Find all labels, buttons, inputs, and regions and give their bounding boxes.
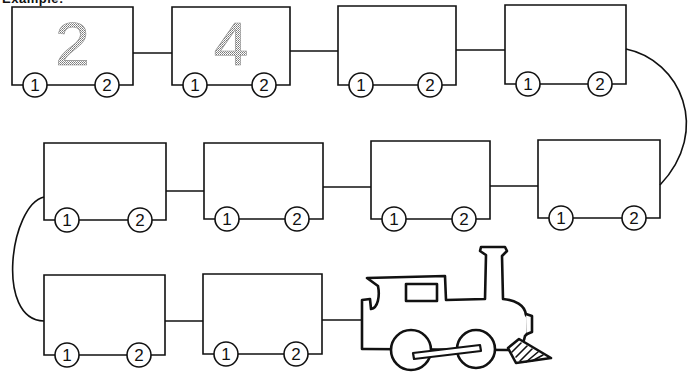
wheel-left-label: 1 [221,345,230,364]
wheel-right-label: 2 [291,345,300,364]
train-car-5: 12 [44,143,166,232]
wheel-left-label: 1 [190,76,199,95]
train-car-8: 12 [538,140,660,230]
wheel-right-label: 2 [259,76,268,95]
train-worksheet: Example: 21241212121212121212 [0,0,698,372]
wheel-right-label: 2 [459,210,468,229]
wheel-right-label: 2 [134,346,143,365]
locomotive [362,247,551,370]
wheel-left-label: 1 [222,210,231,229]
wheel-right-label: 2 [629,209,638,228]
car-number: 4 [214,9,248,78]
wheel-right-label: 2 [102,76,111,95]
train-car-4: 12 [505,5,626,96]
wheel-left-label: 1 [356,76,365,95]
train-car-9: 12 [44,275,165,367]
wheel-right-label: 2 [425,76,434,95]
wheel-right-label: 2 [292,210,301,229]
car-body [505,5,626,84]
train-car-6: 12 [204,143,323,231]
car-body [44,275,165,355]
car-body [203,274,322,354]
wheel-left-label: 1 [62,346,71,365]
train-car-1: 212 [12,7,133,97]
car-body [338,6,456,85]
train-car-2: 412 [172,7,290,97]
wheel-right-label: 2 [135,211,144,230]
wheel-right-label: 2 [595,75,604,94]
wheel-left-label: 1 [523,75,532,94]
train-cars: 2124121212121212121212 [12,5,660,367]
connector-curve-right [626,49,686,185]
train-car-10: 12 [203,274,322,366]
wheel-left-label: 1 [389,210,398,229]
car-number: 2 [55,9,89,78]
train-drawing: 2124121212121212121212 [0,0,698,372]
example-heading: Example: [2,0,64,6]
wheel-left-label: 1 [62,211,71,230]
train-car-3: 12 [338,6,456,97]
wheel-left-label: 1 [30,76,39,95]
locomotive-wheel-rear [391,330,431,370]
connector-curve-left [13,197,44,321]
wheel-left-label: 1 [556,209,565,228]
train-car-7: 12 [371,141,490,231]
